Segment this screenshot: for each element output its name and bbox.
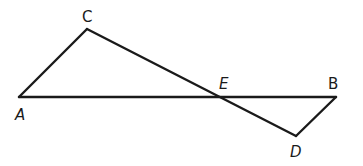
- geometry-diagram: C A E B D: [0, 0, 363, 166]
- segment-ac: [19, 29, 87, 97]
- label-c: C: [82, 8, 92, 26]
- label-a: A: [14, 106, 25, 124]
- label-e: E: [219, 75, 229, 93]
- label-d: D: [290, 143, 302, 161]
- segment-bd: [296, 97, 336, 136]
- label-b: B: [328, 75, 338, 93]
- segment-cd: [87, 29, 296, 136]
